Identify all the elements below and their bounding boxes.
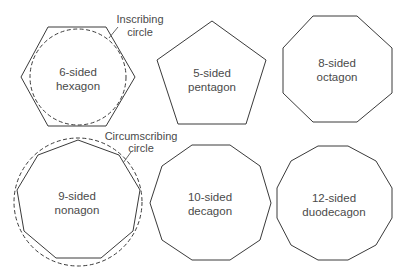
nonagon-label-line1: 9-sided [58, 190, 96, 202]
hexagon-label-line1: 6-sided [59, 66, 97, 78]
dodecagon-figure: 12-sided duodecagon [277, 146, 392, 260]
octagon-label-line2: octagon [317, 71, 358, 83]
polygon-diagram: 6-sided hexagon Inscribing circle 5-side… [0, 0, 405, 279]
decagon-figure: 10-sided decagon [150, 145, 271, 260]
circumscribing-callout-line1: Circumscribing [105, 130, 178, 142]
pentagon-figure: 5-sided pentagon [157, 21, 266, 124]
decagon-label-line1: 10-sided [188, 191, 232, 203]
pentagon-label-line1: 5-sided [193, 67, 231, 79]
nonagon-figure: 9-sided nonagon [14, 138, 142, 266]
octagon-label-line1: 8-sided [318, 57, 356, 69]
nonagon-label-line2: nonagon [55, 204, 100, 216]
octagon-shape [283, 16, 392, 122]
decagon-label-line2: decagon [188, 205, 232, 217]
inscribing-callout-line1: Inscribing [116, 13, 163, 25]
dodecagon-label-line2: duodecagon [302, 206, 365, 218]
inscribing-callout-line2: circle [127, 26, 153, 38]
circumscribing-callout: Circumscribing circle [105, 130, 178, 163]
hexagon-figure: 6-sided hexagon [21, 27, 135, 126]
inscribing-leader-line [109, 27, 118, 38]
circumscribing-circle [14, 138, 142, 266]
hexagon-label-line2: hexagon [56, 80, 100, 92]
inscribing-callout: Inscribing circle [109, 13, 164, 38]
dodecagon-label-line1: 12-sided [312, 192, 356, 204]
circumscribing-callout-line2: circle [128, 142, 154, 154]
pentagon-label-line2: pentagon [188, 81, 236, 93]
octagon-figure: 8-sided octagon [283, 16, 392, 122]
